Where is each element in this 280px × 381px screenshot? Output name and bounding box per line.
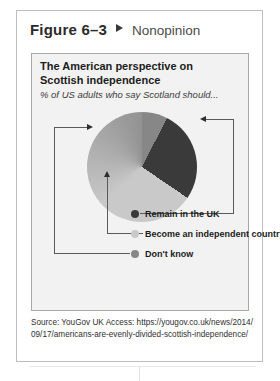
- leader-line-remain-vertical: [233, 119, 234, 214]
- legend-item-independent[interactable]: Become an independent country: [131, 229, 280, 239]
- leader-arrow-remain-icon: [200, 116, 206, 122]
- chart-panel: The American perspective on Scottish ind…: [31, 53, 249, 311]
- figure-number: Figure 6–3: [30, 21, 107, 38]
- leader-line-dontknow-vertical: [54, 127, 55, 254]
- legend-label-dont-know: Don't know: [145, 249, 193, 259]
- figure-container: Figure 6–3 Nonopinion The American persp…: [16, 10, 263, 362]
- legend-item-dont-know[interactable]: Don't know: [131, 249, 193, 259]
- legend-dot-remain-icon: [131, 210, 139, 218]
- legend-item-remain[interactable]: Remain in the UK: [131, 209, 220, 219]
- source-line-2: /17/americans-are-evenly-divided-scottis…: [40, 330, 248, 339]
- legend-dot-independent-icon: [131, 230, 139, 238]
- figure-header: Figure 6–3 Nonopinion: [30, 21, 200, 38]
- figure-caption: Nonopinion: [132, 23, 200, 38]
- leader-line-remain-horizontal-top: [206, 119, 234, 120]
- page-rule-vertical: [139, 366, 140, 381]
- leader-arrow-independent-icon: [104, 171, 110, 177]
- legend-label-remain: Remain in the UK: [145, 209, 220, 219]
- pie-slices: [87, 112, 197, 222]
- page-rule-horizontal: [30, 366, 256, 367]
- source-note: Source: YouGov UK Access: https://yougov…: [31, 317, 253, 341]
- legend-dot-dont-know-icon: [131, 250, 139, 258]
- leader-arrow-dontknow-icon: [87, 124, 93, 130]
- chart-subtitle: % of US adults who say Scotland should..…: [40, 89, 240, 100]
- triangle-right-icon: [116, 24, 123, 32]
- leader-line-dontknow-horizontal-top: [54, 127, 88, 128]
- leader-line-dontknow-horizontal-bottom: [54, 253, 130, 254]
- pie-chart: [87, 112, 197, 222]
- legend-label-independent: Become an independent country: [145, 229, 280, 239]
- chart-title: The American perspective on Scottish ind…: [40, 60, 236, 88]
- leader-line-independent-vertical: [107, 176, 108, 234]
